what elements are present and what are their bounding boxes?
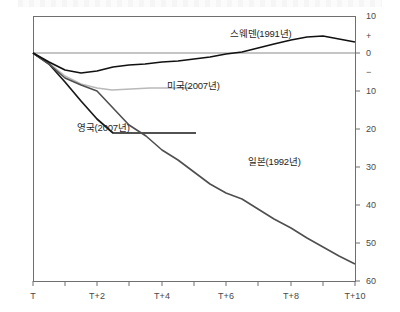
x-tick-label-4: T+8 bbox=[283, 291, 299, 301]
series-label-usa: 미국(2007년) bbox=[167, 78, 220, 92]
y-tick-label-4: 10 bbox=[366, 86, 376, 96]
x-tick-label-3: T+6 bbox=[218, 291, 234, 301]
plot-frame bbox=[34, 17, 356, 282]
x-tick-label-1: T+2 bbox=[89, 291, 105, 301]
y-tick-label-1: + bbox=[366, 31, 371, 41]
series-label-sweden: 스웨덴(1991년) bbox=[230, 26, 291, 40]
y-tick-label-0: 10 bbox=[366, 11, 376, 21]
y-tick-label-5: 20 bbox=[366, 124, 376, 134]
y-tick-label-6: 30 bbox=[366, 162, 376, 172]
series-label-japan: 일본(1992년) bbox=[248, 154, 301, 168]
series-label-uk: 영국(2007년) bbox=[77, 120, 130, 134]
x-tick-label-0: T bbox=[30, 291, 36, 301]
series-line-sweden bbox=[33, 36, 355, 73]
y-tick-label-2: 0 bbox=[366, 48, 371, 58]
y-tick-label-3: − bbox=[366, 67, 371, 77]
y-tick-label-7: 40 bbox=[366, 200, 376, 210]
chart-canvas bbox=[0, 0, 400, 312]
x-tick-label-2: T+4 bbox=[154, 291, 170, 301]
x-tick-label-5: T+10 bbox=[344, 291, 365, 301]
y-tick-label-8: 50 bbox=[366, 238, 376, 248]
y-tick-label-9: 60 bbox=[366, 276, 376, 286]
chart-container: 10 + 0 − 10 20 30 40 50 60 T T+2 T+4 T+6… bbox=[0, 0, 400, 312]
